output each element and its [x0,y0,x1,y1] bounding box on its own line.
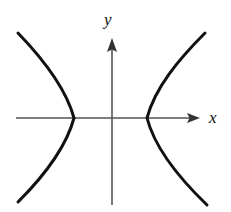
hyperbola-right-branch [147,33,207,205]
y-axis-label: y [104,11,112,28]
figure-canvas [0,0,231,212]
x-axis-label: x [209,109,217,126]
hyperbola-figure: y x [0,0,231,212]
